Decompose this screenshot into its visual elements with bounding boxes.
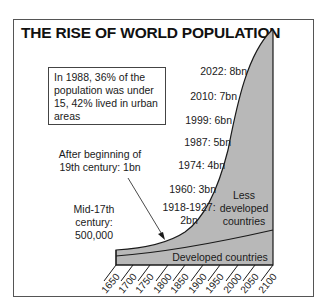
tick-label: 2050	[238, 271, 261, 295]
tick-label: 1850	[168, 271, 191, 295]
milestone-1bn-line1: After beginning of	[59, 148, 141, 160]
milestone-1bn-line2: 19th century: 1bn	[59, 161, 140, 173]
region-less-developed-line1: Less	[233, 189, 255, 201]
milestone-mid17-line2: century:	[75, 216, 112, 228]
milestone-1918-1927-value: 2bn	[180, 214, 198, 226]
milestone-2010: 2010: 7bn	[190, 90, 237, 102]
arrow-line	[128, 178, 163, 236]
milestone-2022: 2022: 8bn	[200, 65, 247, 77]
milestone-mid17-line1: Mid-17th	[74, 203, 115, 215]
population-chart: 1650 1700 1750 1800 1850 1900 1950 2000 …	[0, 0, 334, 308]
tick-label: 1950	[203, 271, 226, 295]
milestone-1987: 1987: 5bn	[184, 136, 231, 148]
region-less-developed-line2: developed	[220, 202, 269, 214]
region-developed: Developed countries	[172, 251, 268, 263]
milestone-1999: 1999: 6bn	[185, 114, 232, 126]
milestone-1918-1927: 1918-1927:	[162, 201, 215, 213]
milestone-1974: 1974: 4bn	[178, 159, 225, 171]
tick-label: 1750	[133, 271, 156, 295]
milestone-mid17-line3: 500,000	[75, 229, 113, 241]
tick-label: 2100	[256, 271, 279, 295]
arrow-head-icon	[158, 232, 165, 240]
milestone-1960: 1960: 3bn	[169, 183, 216, 195]
region-less-developed-line3: countries	[223, 215, 266, 227]
